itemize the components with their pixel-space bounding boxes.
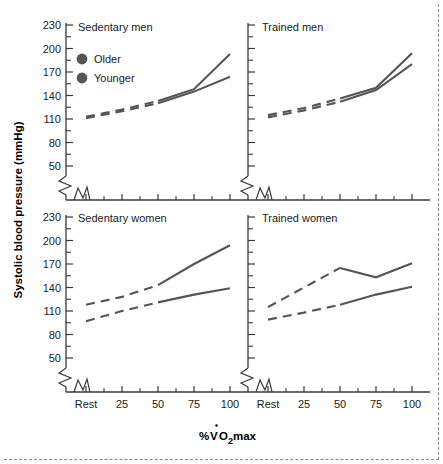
series-line-older-solid [158,245,230,285]
y-tick-label: 50 [49,352,61,364]
y-tick-label: 230 [43,19,61,31]
x-axis-title: % V O 2 max [199,424,257,446]
series-line-older-dashed [268,99,340,116]
y-tick-label: 110 [43,305,61,317]
x-tick-label: 100 [403,398,421,410]
x-axis-title-v: V [210,430,218,442]
v-dot-icon [215,424,217,426]
x-axis-break-icon [256,187,272,200]
y-tick-label: 80 [49,137,61,149]
legend: Older Younger [77,53,135,84]
x-tick-label: 25 [116,398,128,410]
legend-label-older: Older [94,53,121,65]
y-tick-label: 140 [43,90,61,102]
series-line-younger-solid [340,287,412,305]
x-tick-label: 50 [152,398,164,410]
series-line-older-solid [340,263,412,277]
series-line-younger-dashed [86,103,158,118]
legend-marker-younger [77,73,88,84]
series-line-older-dashed [268,268,340,307]
y-axis-break-icon [241,176,253,195]
panel-title-sedentary-women: Sedentary women [78,212,167,224]
y-axis-break-icon [241,368,253,387]
y-tick-label: 110 [43,113,61,125]
x-tick-label: 50 [334,398,346,410]
series-line-older-dashed [86,285,158,305]
x-tick-label: 75 [370,398,382,410]
y-tick-label: 80 [49,329,61,341]
series-line-younger-dashed [268,305,340,320]
x-axis-break-icon [256,379,272,392]
series-line-younger-solid [158,288,230,302]
y-axis-break-icon [59,368,71,387]
y-axis-title: Systolic blood pressure (mmHg) [12,121,24,298]
figure-container: Systolic blood pressure (mmHg) 230200170… [0,0,443,464]
y-tick-label: 170 [43,66,61,78]
x-tick-label: Rest [75,398,98,410]
series-line-older-dashed [86,101,158,117]
series-line-younger-dashed [268,102,340,118]
y-axis-break-icon [59,176,71,195]
panel-title-trained-men: Trained men [262,21,323,33]
y-tick-label: 200 [43,235,61,247]
y-tick-label: 50 [49,160,61,172]
legend-label-younger: Younger [94,72,135,84]
x-tick-label: 75 [188,398,200,410]
x-axis-title-max: max [233,430,257,442]
chart-canvas: Systolic blood pressure (mmHg) 230200170… [0,0,443,464]
x-tick-label: 25 [298,398,310,410]
x-axis-break-icon [74,187,90,200]
y-tick-label: 170 [43,258,61,270]
x-tick-label: Rest [257,398,280,410]
legend-marker-older [77,54,88,65]
series-line-older-solid [158,54,230,101]
series-line-younger-dashed [86,302,158,321]
panel-title-sedentary-men: Sedentary men [78,21,153,33]
y-tick-label: 140 [43,282,61,294]
x-tick-label: 100 [221,398,239,410]
y-tick-label: 200 [43,43,61,55]
y-tick-label: 230 [43,211,61,223]
x-axis-title-percent: % [199,430,209,442]
x-axis-break-icon [74,379,90,392]
panel-title-trained-women: Trained women [262,212,337,224]
series-line-older-solid [340,53,412,98]
x-axis-title-o: O [219,430,228,442]
